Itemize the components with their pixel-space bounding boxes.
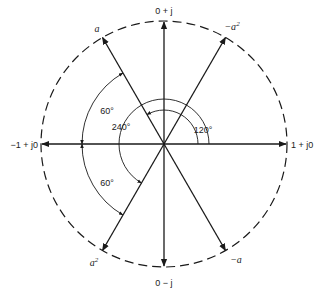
angle-label-60-lower: 60° [100, 178, 114, 188]
angle-label-120: 120° [194, 125, 213, 135]
label-left: −1 + j0 [10, 140, 38, 150]
angle-label-60-upper: 60° [100, 106, 114, 116]
phasor-diagram: 0 + j 0 − j −1 + j0 1 + j0 a −a2 a2 −a 1… [0, 0, 319, 292]
vector-minus-a [164, 144, 226, 251]
label-right: 1 + j0 [291, 140, 313, 150]
angle-label-240: 240° [112, 122, 131, 132]
label-a-squared: a2 [90, 256, 99, 268]
vector-a-squared [103, 144, 165, 251]
label-bottom: 0 − j [155, 278, 172, 288]
label-top: 0 + j [155, 6, 172, 16]
label-minus-a: −a [230, 254, 242, 265]
label-a: a [95, 23, 100, 34]
label-minus-a-squared: −a2 [224, 20, 240, 32]
